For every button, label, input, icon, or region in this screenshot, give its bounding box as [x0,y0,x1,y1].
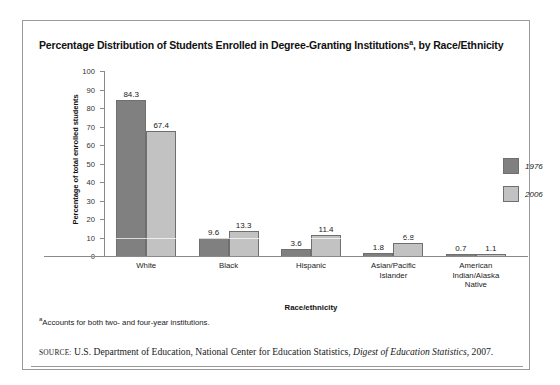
bar-value-label: 67.4 [153,121,169,130]
category-label-american-indian-alaska-native: American Indian/Alaska Native [435,261,517,290]
bar-group-hispanic: 3.6 11.4 [270,71,352,256]
bar-value-label: 11.4 [319,225,334,234]
bar-value-label: 1.8 [373,243,384,252]
y-tick-label: 100 [82,67,95,76]
footnote-text: Accounts for both two- and four-year ins… [42,318,209,327]
bar-value-label: 9.6 [208,228,219,237]
source-divider [31,366,523,367]
y-tick-label: 60 [87,141,95,150]
bar-1976-asian-pacific-islander[interactable]: 1.8 [363,253,393,256]
bar-value-label: 6.8 [403,233,414,242]
bar-value-label: 84.3 [123,90,139,99]
y-axis-tick-labels: 100 90 80 70 60 50 40 30 20 10 0 [67,71,99,256]
bar-value-label: 3.6 [290,239,301,248]
source-publication-title: Digest of Education Statistics [353,346,467,357]
category-label-line: White [136,261,156,270]
bar-1976-black[interactable]: 9.6 [199,238,229,256]
bar-value-label: 0.7 [455,244,466,253]
category-label-line: Black [219,261,238,270]
y-tick-label: 30 [87,196,95,205]
bar-2006-white[interactable]: 67.4 [146,131,176,256]
x-axis-line [44,256,528,257]
legend-label: 1976 [525,162,543,171]
bars-container: 84.3 67.4 9.6 13.3 3.6 11.4 [105,71,517,256]
y-tick-label: 70 [87,122,95,131]
footnote: aAccounts for both two- and four-year in… [39,318,509,327]
category-label-line: Islander [380,271,408,280]
legend-swatch-icon [503,158,519,174]
bar-2006-american-indian-alaska-native[interactable]: 1.1 [476,254,506,257]
chart-plot-area: Percentage of total enrolled students 10… [39,71,517,296]
legend-item-1976[interactable]: 1976 [503,158,543,174]
y-tick-label: 20 [87,215,95,224]
legend-item-2006[interactable]: 2006 [503,186,543,202]
source-tail: , 2007. [467,346,493,357]
category-label-line: Asian/Pacific [371,261,416,270]
bar-2006-black[interactable]: 13.3 [229,231,259,256]
x-axis-title: Race/ethnicity [105,303,517,312]
y-tick-label: 90 [87,85,95,94]
page-title: Percentage Distribution of Students Enro… [39,39,517,52]
bar-2006-hispanic[interactable]: 11.4 [311,235,341,256]
legend-label: 2006 [525,190,543,199]
bar-1976-white[interactable]: 84.3 [116,100,146,256]
bar-group-black: 9.6 13.3 [187,71,269,256]
chart-title-main: Percentage Distribution of Students Enro… [39,39,409,51]
category-label-line: Native [465,280,487,289]
category-label-white: White [105,261,187,290]
category-label-line: American [459,261,492,270]
figure-frame: Percentage Distribution of Students Enro… [22,20,530,370]
y-tick-label: 80 [87,104,95,113]
chart-title-tail: , by Race/Ethnicity [413,39,504,51]
category-label-line: Indian/Alaska [452,271,499,280]
bar-value-label: 1.1 [485,244,496,253]
source-text: U.S. Department of Education, National C… [74,346,353,357]
category-label-line: Hispanic [296,261,326,270]
x-axis-category-labels: White Black Hispanic Asian/Pacific Islan… [105,261,517,290]
bar-2006-asian-pacific-islander[interactable]: 6.8 [393,243,423,256]
bar-group-white: 84.3 67.4 [105,71,187,256]
bar-group-asian-pacific-islander: 1.8 6.8 [352,71,434,256]
y-tick-label: 40 [87,178,95,187]
source-line: Source: U.S. Department of Education, Na… [39,346,517,358]
bar-value-label: 13.3 [236,221,252,230]
y-tick-label: 50 [87,159,95,168]
chart-legend: 1976 2006 [503,158,543,214]
bar-1976-hispanic[interactable]: 3.6 [281,249,311,256]
bar-1976-american-indian-alaska-native[interactable]: 0.7 [446,254,476,257]
category-label-black: Black [187,261,269,290]
category-label-asian-pacific-islander: Asian/Pacific Islander [352,261,434,290]
y-tick-label: 10 [87,233,95,242]
source-label: Source: [39,348,72,357]
category-label-hispanic: Hispanic [270,261,352,290]
legend-swatch-icon [503,186,519,202]
